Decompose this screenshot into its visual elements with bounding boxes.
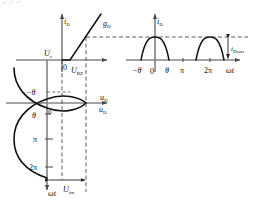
panel-input-waveform: uD −θ θ π 2π 0 ωt Uim	[6, 60, 107, 198]
current-x-axis-label: ωt	[226, 66, 235, 75]
current-tick-label-theta: θ	[165, 66, 169, 75]
current-tick-label-2pi: 2π	[204, 66, 212, 75]
current-tick-label-minus-theta: −θ	[132, 66, 141, 75]
input-sine-curve	[14, 68, 86, 178]
transfer-origin-label: 0	[63, 63, 67, 72]
transfer-x-axis-label: uD	[100, 93, 108, 103]
input-time-axis-label: ωt	[48, 189, 57, 198]
input-tick-label-minus-theta: −θ	[26, 88, 35, 97]
transfer-slope-label: gD	[103, 19, 111, 29]
input-x-axis-label: uD	[99, 105, 107, 115]
scan-artifact	[2, 1, 21, 4]
input-tick-label-theta: θ	[32, 111, 36, 120]
panel-current-waveform: iD ωt iDmax −θ 0 θ π 2π	[126, 14, 244, 76]
figure-container: iD uD gD 0 Us UBZ iD	[0, 0, 253, 210]
current-tick-label-zero: 0	[150, 67, 154, 76]
input-tick-label-pi: π	[33, 135, 37, 144]
current-y-axis-label: iD	[157, 17, 163, 27]
electronics-graphical-analysis-figure: iD uD gD 0 Us UBZ iD	[0, 0, 253, 210]
current-peak-label: iDmax	[231, 45, 244, 54]
transfer-threshold-label: UBZ	[71, 66, 83, 76]
current-tick-label-pi: π	[180, 66, 184, 75]
current-pulse-second	[196, 37, 224, 60]
input-tick-label-2pi: 2π	[29, 163, 37, 172]
transfer-y-axis-label: iD	[64, 17, 70, 27]
transfer-bias-label: Us	[44, 49, 52, 59]
input-origin-label: 0	[48, 108, 52, 116]
input-amplitude-label: Uim	[63, 185, 74, 195]
